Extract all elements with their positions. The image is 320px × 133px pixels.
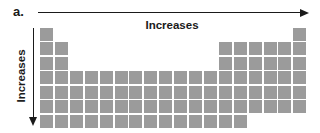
periodic-table-cell bbox=[293, 42, 306, 55]
periodic-table-cell bbox=[144, 71, 157, 84]
periodic-table-cell bbox=[293, 57, 306, 70]
periodic-table-cell bbox=[115, 115, 128, 128]
periodic-table-cell bbox=[234, 42, 247, 55]
periodic-table-cell bbox=[100, 71, 113, 84]
periodic-table-cell bbox=[278, 86, 291, 99]
periodic-table-cell bbox=[100, 100, 113, 113]
periodic-table-cell bbox=[278, 57, 291, 70]
periodic-table-cell bbox=[115, 86, 128, 99]
periodic-table-cell bbox=[40, 42, 53, 55]
periodic-table-cell bbox=[189, 71, 202, 84]
periodic-table-cell bbox=[159, 71, 172, 84]
periodic-table-cell bbox=[249, 57, 262, 70]
periodic-table-cell bbox=[264, 42, 277, 55]
periodic-table-cell bbox=[278, 71, 291, 84]
periodic-table-cell bbox=[264, 86, 277, 99]
periodic-table-cell bbox=[70, 115, 83, 128]
periodic-table-cell bbox=[85, 115, 98, 128]
periodic-table-cell bbox=[85, 100, 98, 113]
periodic-table-cell bbox=[115, 100, 128, 113]
periodic-table-cell bbox=[55, 71, 68, 84]
periodic-table-cell bbox=[85, 71, 98, 84]
periodic-table-cell bbox=[234, 100, 247, 113]
periodic-table-cell bbox=[159, 86, 172, 99]
periodic-table-cell bbox=[249, 100, 262, 113]
periodic-table-cell bbox=[264, 100, 277, 113]
periodic-table-cell bbox=[55, 86, 68, 99]
periodic-table-cell bbox=[159, 115, 172, 128]
periodic-table-cell bbox=[144, 115, 157, 128]
periodic-table-cell bbox=[249, 71, 262, 84]
periodic-table-cell bbox=[219, 100, 232, 113]
periodic-table-cell bbox=[293, 86, 306, 99]
periodic-table-cell bbox=[293, 28, 306, 41]
periodic-table-cell bbox=[204, 71, 217, 84]
periodic-table-cell bbox=[204, 115, 217, 128]
periodic-table-cell bbox=[249, 86, 262, 99]
periodic-table-cell bbox=[55, 42, 68, 55]
periodic-table-cell bbox=[40, 28, 53, 41]
periodic-table-cell bbox=[70, 71, 83, 84]
periodic-table-cell bbox=[115, 71, 128, 84]
periodic-table-cell bbox=[174, 115, 187, 128]
periodic-table-cell bbox=[234, 71, 247, 84]
periodic-table-cell bbox=[85, 86, 98, 99]
periodic-table-cell bbox=[174, 86, 187, 99]
periodic-table-cell bbox=[189, 100, 202, 113]
periodic-table-cell bbox=[40, 86, 53, 99]
periodic-table-cell bbox=[70, 100, 83, 113]
periodic-table-cell bbox=[278, 100, 291, 113]
periodic-table-cell bbox=[293, 71, 306, 84]
periodic-table-cell bbox=[40, 71, 53, 84]
periodic-table-cell bbox=[264, 71, 277, 84]
periodic-table-cell bbox=[219, 71, 232, 84]
periodic-table-cell bbox=[159, 100, 172, 113]
periodic-table-cell bbox=[129, 115, 142, 128]
periodic-table-cell bbox=[189, 86, 202, 99]
periodic-trend-figure: a. Increases Increases bbox=[0, 0, 320, 133]
periodic-table-cell bbox=[55, 115, 68, 128]
periodic-table-cell bbox=[234, 115, 247, 128]
periodic-table-cell bbox=[129, 100, 142, 113]
periodic-table-cell bbox=[55, 57, 68, 70]
periodic-table-cell bbox=[264, 57, 277, 70]
periodic-table-cell bbox=[144, 86, 157, 99]
periodic-table-cell bbox=[100, 86, 113, 99]
periodic-table-cell bbox=[40, 115, 53, 128]
periodic-table-cell bbox=[234, 86, 247, 99]
periodic-table-cell bbox=[189, 115, 202, 128]
periodic-table-cell bbox=[219, 57, 232, 70]
periodic-table-cell bbox=[249, 42, 262, 55]
periodic-table-cell bbox=[219, 115, 232, 128]
periodic-table-cell bbox=[40, 57, 53, 70]
periodic-table-cell bbox=[100, 115, 113, 128]
periodic-table-cell bbox=[204, 100, 217, 113]
periodic-table-cell bbox=[204, 86, 217, 99]
periodic-table-cell bbox=[55, 100, 68, 113]
periodic-table-cell bbox=[144, 100, 157, 113]
periodic-table-cell bbox=[278, 42, 291, 55]
periodic-table-cell bbox=[234, 57, 247, 70]
periodic-table-cell bbox=[40, 100, 53, 113]
periodic-table-cell bbox=[129, 86, 142, 99]
periodic-table-cell bbox=[219, 86, 232, 99]
periodic-table-cell bbox=[219, 42, 232, 55]
periodic-table-grid bbox=[0, 0, 320, 133]
periodic-table-cell bbox=[174, 71, 187, 84]
periodic-table-cell bbox=[129, 71, 142, 84]
periodic-table-cell bbox=[70, 86, 83, 99]
periodic-table-cell bbox=[293, 100, 306, 113]
periodic-table-cell bbox=[174, 100, 187, 113]
